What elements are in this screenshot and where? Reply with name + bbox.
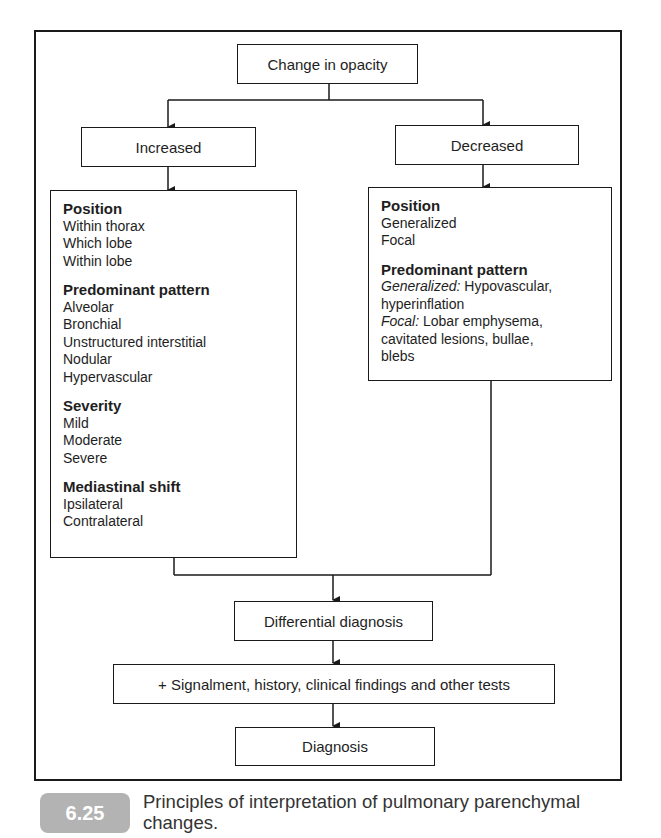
list-item: Moderate (63, 432, 284, 450)
section-title: Position (63, 200, 284, 218)
section-title: Severity (63, 397, 284, 415)
list-item: Which lobe (63, 235, 284, 253)
list-item: Generalized: Hypovascular, (381, 278, 599, 296)
section-title: Position (381, 197, 599, 215)
decreased-details: Position Generalized Focal Predominant p… (368, 187, 612, 381)
list-item: Bronchial (63, 316, 284, 334)
section-title: Mediastinal shift (63, 478, 284, 496)
list-item: Nodular (63, 351, 284, 369)
list-item: Focal (381, 232, 599, 250)
differential-label: Differential diagnosis (264, 613, 403, 630)
list-item: Mild (63, 415, 284, 433)
figure-caption: Principles of interpretation of pulmonar… (143, 791, 603, 833)
pattern-text: Lobar emphysema, (419, 313, 543, 329)
root-node: Change in opacity (237, 44, 418, 84)
list-item: Focal: Lobar emphysema, (381, 313, 599, 331)
list-item: Alveolar (63, 299, 284, 317)
list-item: blebs (381, 348, 599, 366)
pattern-text: Hypovascular, (460, 278, 552, 294)
differential-node: Differential diagnosis (234, 601, 433, 641)
pattern-qualifier: Generalized: (381, 278, 460, 294)
figure-number: 6.25 (66, 802, 105, 825)
increased-details: Position Within thorax Which lobe Within… (50, 190, 297, 558)
list-item: Generalized (381, 215, 599, 233)
list-item: hyperinflation (381, 296, 599, 314)
list-item: Within thorax (63, 218, 284, 236)
root-label: Change in opacity (267, 56, 387, 73)
pattern-qualifier: Focal: (381, 313, 419, 329)
figure-number-badge: 6.25 (40, 793, 130, 833)
decreased-node: Decreased (395, 125, 579, 165)
increased-label: Increased (136, 139, 202, 156)
list-item: Contralateral (63, 513, 284, 531)
list-item: Severe (63, 450, 284, 468)
pattern-text: hyperinflation (381, 296, 464, 312)
signalment-label: + Signalment, history, clinical findings… (158, 676, 510, 693)
diagnosis-node: Diagnosis (235, 727, 435, 766)
decreased-label: Decreased (451, 137, 524, 154)
diagnosis-label: Diagnosis (302, 738, 368, 755)
list-item: Unstructured interstitial (63, 334, 284, 352)
signalment-node: + Signalment, history, clinical findings… (113, 664, 555, 704)
list-item: Ipsilateral (63, 496, 284, 514)
pattern-text: blebs (381, 348, 414, 364)
list-item: Within lobe (63, 253, 284, 271)
list-item: cavitated lesions, bullae, (381, 331, 599, 349)
list-item: Hypervascular (63, 369, 284, 387)
increased-node: Increased (81, 127, 256, 167)
section-title: Predominant pattern (381, 261, 599, 279)
section-title: Predominant pattern (63, 281, 284, 299)
pattern-text: cavitated lesions, bullae, (381, 331, 534, 347)
